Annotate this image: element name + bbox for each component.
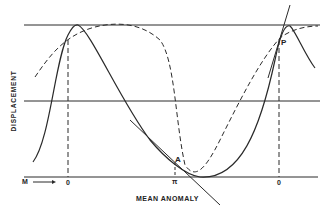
dashed-mean-curve (35, 24, 318, 172)
m-label: M (22, 178, 28, 185)
tick-label-left-zero: 0 (66, 179, 70, 186)
tick-label-pi: π (172, 178, 178, 185)
point-p-label: P (281, 38, 287, 47)
tick-label-right-zero: 0 (277, 179, 281, 186)
orbit-displacement-diagram (0, 0, 325, 209)
y-axis-label: DISPLACEMENT (10, 71, 17, 132)
x-axis-label: MEAN ANOMALY (136, 195, 199, 202)
m-arrow-head-icon (52, 180, 56, 184)
point-a-label: A (175, 155, 181, 164)
